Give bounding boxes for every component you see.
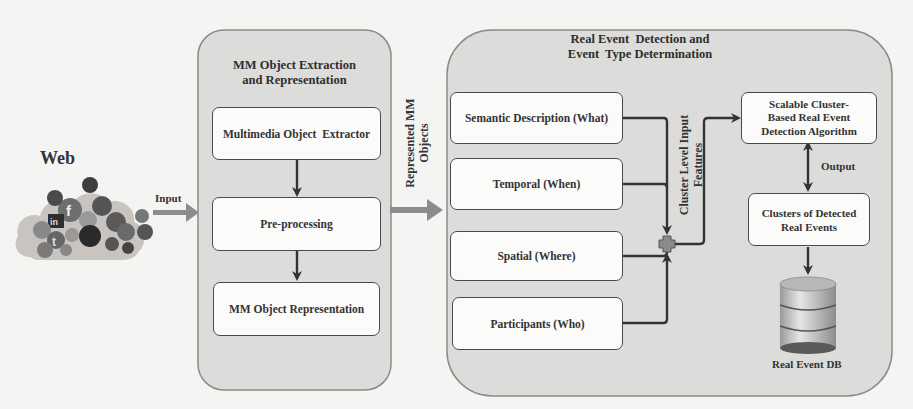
social-media-cloud-icon: f in t bbox=[16, 177, 153, 260]
temporal-box: Temporal (When) bbox=[450, 158, 623, 210]
connector-label-line2: Objects bbox=[417, 83, 431, 203]
extraction-title-line2: and Representation bbox=[198, 73, 391, 88]
database-icon bbox=[780, 277, 836, 354]
merge-label-line2: Features bbox=[691, 100, 705, 230]
clusters-line2: Real Events bbox=[781, 220, 837, 234]
detection-panel-title: Real Event Detection and Event Type Dete… bbox=[540, 32, 740, 62]
real-event-db-label: Real Event DB bbox=[772, 358, 842, 370]
clusters-line1: Clusters of Detected bbox=[762, 206, 857, 220]
algorithm-line1: Scalable Cluster- bbox=[769, 98, 849, 112]
connector-label-line1: Represented MM bbox=[403, 83, 417, 203]
multimedia-object-extractor-box: Multimedia Object Extractor bbox=[212, 107, 381, 160]
detection-title-line1: Real Event Detection and bbox=[540, 32, 740, 47]
feature-label: Spatial (Where) bbox=[497, 249, 575, 263]
represented-objects-label: Represented MM Objects bbox=[403, 83, 433, 203]
step-label: Multimedia Object Extractor bbox=[223, 127, 370, 141]
semantic-description-box: Semantic Description (What) bbox=[450, 92, 623, 144]
svg-text:t: t bbox=[52, 235, 56, 249]
feature-label: Temporal (When) bbox=[493, 177, 580, 191]
clusters-of-detected-events-box: Clusters of Detected Real Events bbox=[748, 193, 870, 246]
algorithm-line2: Based Real Event bbox=[768, 111, 851, 125]
svg-text:in: in bbox=[50, 217, 58, 227]
mm-object-representation-box: MM Object Representation bbox=[213, 282, 380, 336]
algorithm-line3: Detection Algorithm bbox=[761, 125, 857, 139]
feature-label: Semantic Description (What) bbox=[465, 111, 608, 125]
step-label: MM Object Representation bbox=[229, 302, 364, 316]
scalable-cluster-algorithm-box: Scalable Cluster- Based Real Event Detec… bbox=[741, 92, 877, 144]
input-label: Input bbox=[155, 192, 181, 204]
merge-label-line1: Cluster Level Input bbox=[677, 100, 691, 230]
input-arrow bbox=[153, 203, 199, 222]
detection-title-line2: Event Type Determination bbox=[540, 47, 740, 62]
extraction-panel-title: MM Object Extraction and Representation bbox=[198, 58, 391, 88]
extraction-title-line1: MM Object Extraction bbox=[198, 58, 391, 73]
feature-label: Participants (Who) bbox=[490, 317, 584, 331]
participants-box: Participants (Who) bbox=[452, 297, 623, 350]
spatial-box: Spatial (Where) bbox=[450, 231, 623, 281]
pre-processing-box: Pre-processing bbox=[212, 197, 381, 251]
output-label: Output bbox=[821, 160, 855, 172]
cluster-level-input-features-label: Cluster Level Input Features bbox=[677, 100, 707, 230]
step-label: Pre-processing bbox=[260, 217, 332, 231]
